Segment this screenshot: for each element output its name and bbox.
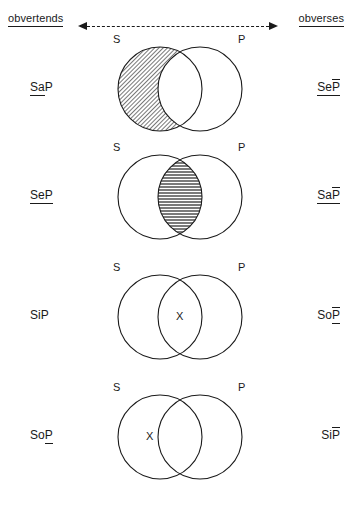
- circle-p: [158, 395, 242, 479]
- arrow-left-icon: [78, 22, 87, 30]
- obvertend-prefix: Sa: [30, 80, 45, 94]
- circle-label-s: S: [113, 382, 120, 393]
- obverse-predicate-negated: P: [332, 80, 340, 94]
- venn-shapes: [104, 138, 252, 256]
- shaded-region-s-only: [118, 47, 242, 131]
- obverse-term: SeP: [317, 80, 340, 94]
- venn-diagram: S P X: [104, 258, 252, 376]
- x-mark-s-only: X: [146, 431, 153, 442]
- obverse-predicate-negated: P: [332, 308, 340, 322]
- x-mark-intersection: X: [176, 311, 183, 322]
- header-label-obvertends: obvertends: [8, 12, 63, 27]
- obverse-label: SaP: [317, 188, 340, 202]
- obverse-prefix: Si: [321, 428, 332, 442]
- diagram-row: SaP S P: [0, 30, 350, 150]
- diagram-row: SeP S P SaP: [0, 138, 350, 258]
- obverse-label: SoP: [317, 308, 340, 322]
- circle-label-s: S: [113, 142, 120, 153]
- diagram-row: SoP S P X SiP: [0, 378, 350, 498]
- circle-s: [118, 395, 202, 479]
- obvertend-predicate: P: [45, 428, 53, 442]
- obvertend-label: SaP: [30, 80, 53, 94]
- venn-diagram: S P: [104, 30, 252, 148]
- obverse-prefix: So: [317, 308, 332, 322]
- circle-label-s: S: [113, 262, 120, 273]
- header: obvertends obverses: [0, 10, 350, 32]
- obverse-label: SeP: [317, 80, 340, 94]
- obvertend-prefix: Si: [30, 308, 41, 322]
- obverse-predicate-negated: P: [332, 428, 340, 442]
- obverse-predicate-negated: P: [332, 188, 340, 202]
- venn-shapes: [104, 378, 252, 496]
- circle-p: [158, 275, 242, 359]
- circle-s: [118, 275, 202, 359]
- obvertend-prefix: So: [30, 428, 45, 442]
- venn-diagram: S P: [104, 138, 252, 256]
- venn-shapes: [104, 30, 252, 148]
- circle-label-p: P: [238, 142, 245, 153]
- dashed-line: [87, 26, 269, 27]
- obvertend-label: SoP: [30, 428, 53, 442]
- circle-label-s: S: [113, 34, 120, 45]
- diagram-row: SiP S P X SoP: [0, 258, 350, 378]
- obvertend-term: SeP: [30, 188, 53, 202]
- obvertend-predicate: P: [45, 188, 53, 202]
- venn-obversion-diagram: obvertends obverses SaP S P: [0, 0, 350, 516]
- obvertend-prefix: Se: [30, 188, 45, 202]
- obverse-prefix: Sa: [317, 188, 332, 202]
- venn-diagram: S P X: [104, 378, 252, 496]
- obvertend-predicate: P: [45, 80, 53, 94]
- obverse-label: SiP: [321, 428, 340, 442]
- obvertend-label: SeP: [30, 188, 53, 202]
- obverse-term: SaP: [317, 188, 340, 202]
- arrow-right-icon: [269, 22, 278, 30]
- circle-label-p: P: [238, 382, 245, 393]
- obverse-prefix: Se: [317, 80, 332, 94]
- circle-label-p: P: [238, 262, 245, 273]
- obvertend-predicate: P: [41, 308, 49, 322]
- header-label-obverses: obverses: [299, 12, 344, 27]
- obvertend-label: SiP: [30, 308, 49, 322]
- circle-label-p: P: [238, 34, 245, 45]
